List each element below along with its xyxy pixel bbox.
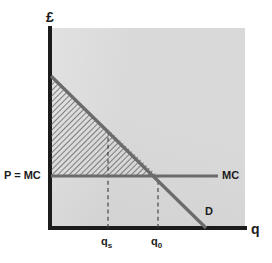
curves-layer [0,0,272,263]
y-axis-title: £ [46,10,54,24]
tick-label-q0: q0 [151,236,162,250]
mc-curve-label: MC [222,170,239,181]
tick-qs-subscript: s [108,241,112,250]
x-axis-title: q [251,222,260,236]
tick-q0-base: q [151,235,158,247]
price-equals-mc-label: P = MC [4,170,41,181]
tick-label-qs: qs [101,236,112,250]
economics-diagram: £ q P = MC MC D qs q0 [0,0,272,263]
tick-q0-subscript: 0 [158,241,162,250]
demand-curve-label: D [205,206,213,217]
tick-qs-base: q [101,235,108,247]
